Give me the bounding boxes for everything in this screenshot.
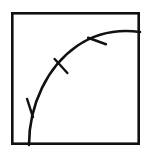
geometry-figure [0,0,154,155]
figure-canvas [0,0,154,155]
